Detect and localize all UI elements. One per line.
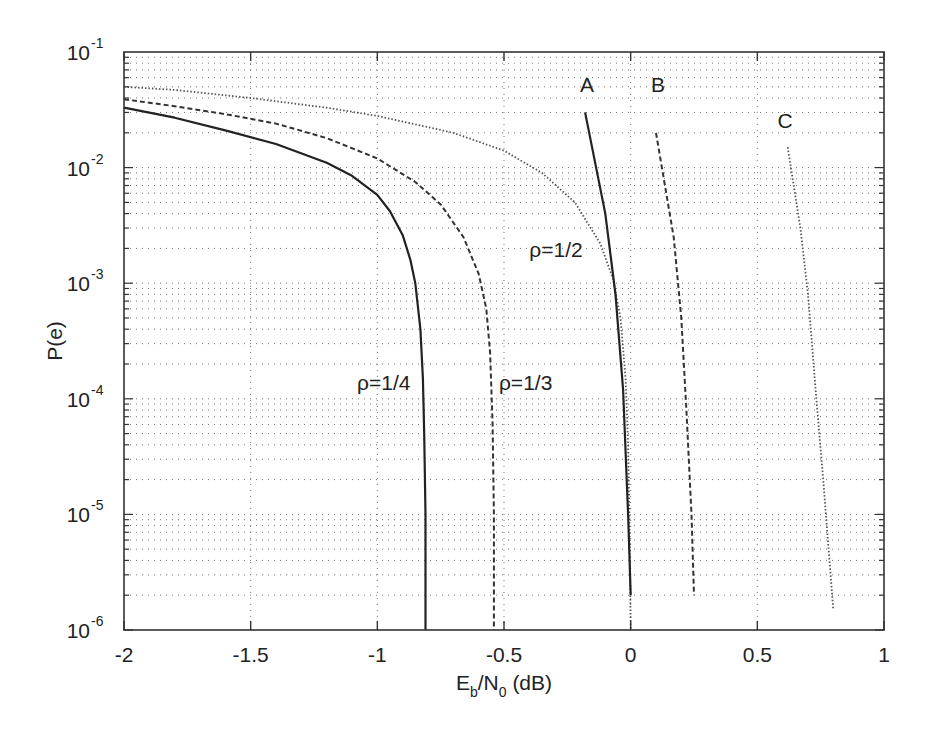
y-tick-exponent: -1: [91, 35, 104, 51]
x-axis-label: Eb/N0 (dB): [456, 671, 552, 700]
curve-label-a: A: [580, 73, 594, 96]
grid-lines: [124, 52, 884, 630]
curve-a: [585, 112, 631, 595]
y-tick-label: 10: [67, 388, 90, 411]
curve-labels: ABCρ=1/2ρ=1/3ρ=1/4: [357, 73, 793, 394]
y-tick-label: 10: [67, 619, 90, 642]
curve--1-3: [124, 99, 494, 630]
curve-label--1-4: ρ=1/4: [357, 371, 411, 394]
curve--1-4: [124, 108, 426, 630]
x-tick-label: 0: [625, 643, 637, 666]
y-tick-exponent: -3: [91, 266, 104, 282]
curves: [124, 87, 833, 630]
y-tick-label: 10: [67, 503, 90, 526]
y-tick-exponent: -6: [91, 613, 104, 629]
y-tick-labels: 10-610-510-410-310-210-1: [67, 35, 104, 642]
x-tick-labels: -2-1.5-1-0.500.51: [115, 643, 890, 666]
y-axis-label: P(e): [43, 321, 66, 361]
x-tick-label: 0.5: [743, 643, 772, 666]
ber-chart: -2-1.5-1-0.500.51 10-610-510-410-310-210…: [0, 0, 933, 734]
y-tick-label: 10: [67, 157, 90, 180]
x-tick-label: -1: [368, 643, 387, 666]
x-tick-label: -1.5: [233, 643, 269, 666]
y-tick-exponent: -5: [91, 497, 104, 513]
y-tick-label: 10: [67, 41, 90, 64]
curve-label-b: B: [651, 73, 665, 96]
curve-label-c: C: [778, 109, 793, 132]
x-tick-label: -0.5: [486, 643, 522, 666]
x-tick-label: -2: [115, 643, 134, 666]
y-tick-label: 10: [67, 272, 90, 295]
y-tick-exponent: -2: [91, 151, 104, 167]
curve-label--1-2: ρ=1/2: [529, 238, 582, 261]
x-tick-label: 1: [878, 643, 890, 666]
y-tick-exponent: -4: [91, 382, 104, 398]
curve-label--1-3: ρ=1/3: [499, 371, 552, 394]
